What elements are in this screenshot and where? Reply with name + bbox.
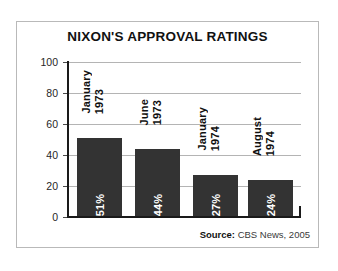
bar-category-june-1973: June 1973 bbox=[138, 99, 163, 125]
bar-january-1974[interactable]: 27% bbox=[193, 175, 238, 217]
bar-category-january-1973: January 1973 bbox=[80, 70, 105, 114]
bar-value-january-1973: 51% bbox=[94, 194, 106, 217]
y-tick-label-100: 100 bbox=[12, 57, 58, 67]
chart-title: NIXON'S APPROVAL RATINGS bbox=[16, 29, 319, 44]
bar-category-month-january-1973: January bbox=[80, 70, 92, 114]
bar-category-year-january-1974: 1974 bbox=[209, 126, 221, 151]
bar-august-1974[interactable]: 24% bbox=[248, 180, 293, 217]
y-tick-label-0: 0 bbox=[12, 212, 58, 222]
source-label: Source: bbox=[200, 229, 235, 240]
bar-value-january-1974: 27% bbox=[210, 194, 222, 217]
source-note: Source: CBS News, 2005 bbox=[16, 229, 310, 240]
bar-category-august-1974: August 1974 bbox=[251, 117, 276, 156]
bar-category-year-january-1973: 1973 bbox=[93, 89, 105, 114]
y-axis-line bbox=[67, 61, 69, 218]
bar-category-month-january-1974: January bbox=[196, 107, 208, 151]
y-tick-label-40: 40 bbox=[12, 150, 58, 160]
source-value: CBS News, 2005 bbox=[235, 229, 310, 240]
bar-category-month-august-1974: August bbox=[251, 117, 263, 156]
bar-category-month-june-1973: June bbox=[138, 99, 150, 125]
bar-category-year-august-1974: 1974 bbox=[264, 131, 276, 156]
bar-january-1973[interactable]: 51% bbox=[77, 138, 122, 217]
chart-figure: NIXON'S APPROVAL RATINGS 100 80 60 40 20… bbox=[0, 0, 338, 271]
y-tick-label-60: 60 bbox=[12, 119, 58, 129]
bar-category-year-june-1973: 1973 bbox=[151, 100, 163, 125]
bar-category-january-1974: January 1974 bbox=[196, 107, 221, 151]
x-axis-line bbox=[67, 216, 301, 218]
bar-value-august-1974: 24% bbox=[265, 194, 277, 217]
y-tick-label-20: 20 bbox=[12, 181, 58, 191]
gridline-100 bbox=[68, 62, 301, 63]
bar-value-june-1973: 44% bbox=[152, 194, 164, 217]
bar-june-1973[interactable]: 44% bbox=[135, 149, 180, 217]
y-tick-label-80: 80 bbox=[12, 88, 58, 98]
x-axis-end-tick bbox=[299, 206, 301, 218]
